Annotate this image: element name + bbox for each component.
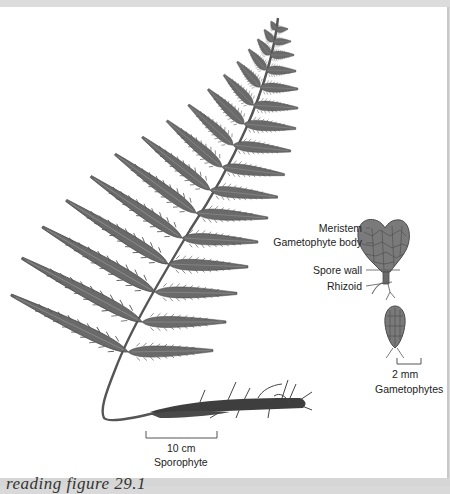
gametophyte-young bbox=[385, 306, 405, 358]
gametophyte-heart bbox=[358, 219, 409, 300]
label-spore-wall: Spore wall bbox=[262, 264, 362, 276]
scale-label-2mm: 2 mm bbox=[392, 368, 418, 380]
label-gametophyte-body: Gametophyte body bbox=[262, 236, 362, 248]
rachis bbox=[103, 18, 300, 420]
pinnae-right bbox=[128, 24, 299, 361]
label-meristem: Meristem bbox=[262, 222, 362, 234]
sporophyte-label: Sporophyte bbox=[154, 456, 208, 468]
label-rhizoid: Rhizoid bbox=[262, 280, 362, 292]
gametophytes-label: Gametophytes bbox=[375, 383, 443, 395]
rhizome bbox=[150, 380, 312, 418]
scale-bar-2mm bbox=[397, 358, 421, 364]
scale-label-10cm: 10 cm bbox=[167, 442, 196, 454]
scale-bar-10cm bbox=[146, 431, 217, 438]
figure-caption: reading figure 29.1 bbox=[6, 474, 146, 494]
